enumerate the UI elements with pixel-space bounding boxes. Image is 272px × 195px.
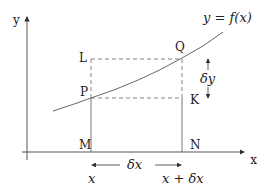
point-P-label: P	[80, 85, 88, 99]
point-M-label: M	[79, 138, 91, 152]
point-Q-label: Q	[175, 40, 185, 54]
delta-x-label: δx	[127, 157, 143, 172]
y-axis-label: y	[12, 13, 20, 27]
x-left-label: x	[88, 171, 96, 186]
curve-label: y = f(x)	[202, 10, 252, 25]
x-right-label: x + δx	[162, 171, 204, 186]
point-N-label: N	[190, 138, 201, 152]
point-K-label: K	[190, 93, 200, 107]
delta-y-label: δy	[200, 71, 216, 86]
diagram-canvas: y x y = f(x) L Q P K M N δy δx x x + δx	[0, 0, 272, 195]
point-L-label: L	[79, 51, 87, 65]
x-axis-label: x	[250, 153, 257, 167]
